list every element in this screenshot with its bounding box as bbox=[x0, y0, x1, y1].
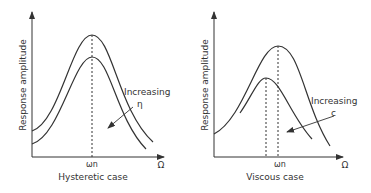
hysteretic-panel: Increasing η Response amplitude ωn Ω Hys… bbox=[18, 12, 170, 182]
y-axis-label: Response amplitude bbox=[18, 39, 28, 131]
panel-caption: Viscous case bbox=[246, 172, 304, 182]
y-axis-label: Response amplitude bbox=[200, 39, 210, 131]
panel-caption: Hysteretic case bbox=[58, 172, 128, 182]
curve-high-damping bbox=[240, 78, 312, 139]
x-axis-label: Ω bbox=[342, 160, 349, 170]
tick-label-omega-n: ωn bbox=[86, 160, 98, 169]
annotation-increasing: Increasing bbox=[311, 96, 357, 106]
tick-label-omega-n: ωn bbox=[274, 160, 286, 169]
annotation-symbol: c bbox=[331, 108, 336, 118]
curve-high-damping bbox=[32, 57, 146, 149]
increasing-arrow bbox=[287, 116, 334, 132]
resonance-diagram: Increasing η Response amplitude ωn Ω Hys… bbox=[0, 0, 371, 193]
viscous-panel: Increasing c Response amplitude ωn Ω Vis… bbox=[200, 12, 357, 182]
x-axis-label: Ω bbox=[158, 160, 165, 170]
annotation-symbol: η bbox=[137, 99, 143, 109]
annotation-increasing: Increasing bbox=[124, 87, 170, 97]
